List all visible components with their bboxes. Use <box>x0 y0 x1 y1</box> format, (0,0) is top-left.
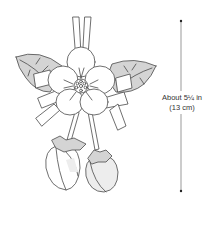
flower-icon <box>48 47 115 115</box>
right-leaf-icon <box>109 60 156 92</box>
strawberry-left-icon <box>46 136 86 190</box>
strawberry-right-icon <box>86 150 118 192</box>
dimension-label-imperial: About 5¼ in <box>152 93 212 102</box>
dimension-label-metric: (13 cm) <box>152 103 212 112</box>
